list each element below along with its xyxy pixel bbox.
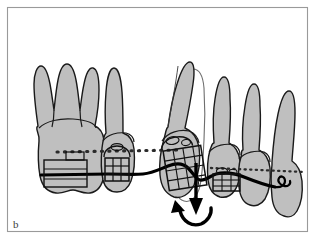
figure-panel: b bbox=[0, 0, 315, 239]
orthodontic-diagram bbox=[0, 0, 315, 239]
panel-label: b bbox=[13, 219, 19, 230]
